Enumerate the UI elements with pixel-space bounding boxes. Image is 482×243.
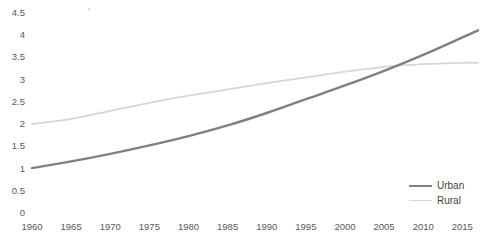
legend-item-urban: Urban	[409, 178, 479, 193]
x-tick-label: 1995	[286, 222, 326, 232]
y-tick-label: 3	[0, 75, 25, 85]
y-tick-label: 0	[0, 208, 25, 218]
y-tick-label: 1.5	[0, 141, 25, 151]
legend-label-urban: Urban	[437, 181, 464, 191]
x-tick-label: 2005	[364, 222, 404, 232]
y-tick-label: 2.5	[0, 97, 25, 107]
x-tick-label: 1965	[51, 222, 91, 232]
x-tick-label: 2015	[442, 222, 482, 232]
y-tick-label: 1	[0, 164, 25, 174]
y-tick-label: 4.5	[0, 8, 25, 18]
x-tick-label: 1985	[208, 222, 248, 232]
y-tick-label: 2	[0, 119, 25, 129]
x-tick-label: 1990	[247, 222, 287, 232]
series-line-urban	[32, 30, 478, 168]
legend-label-rural: Rural	[437, 196, 461, 206]
legend-swatch-urban-icon	[409, 185, 432, 187]
line-chart: 00.511.522.533.544.5 1960196519701975198…	[0, 0, 482, 243]
x-tick-label: 2000	[325, 222, 365, 232]
y-tick-label: 3.5	[0, 52, 25, 62]
stray-artifact-mark	[88, 8, 90, 10]
legend-swatch-rural-icon	[409, 200, 432, 201]
x-tick-label: 1970	[90, 222, 130, 232]
x-tick-label: 2010	[403, 222, 443, 232]
y-tick-label: 4	[0, 30, 25, 40]
x-tick-label: 1960	[12, 222, 52, 232]
x-tick-label: 1980	[168, 222, 208, 232]
legend-item-rural: Rural	[409, 193, 479, 208]
x-tick-label: 1975	[129, 222, 169, 232]
chart-legend: Urban Rural	[409, 178, 479, 208]
y-tick-label: 0.5	[0, 186, 25, 196]
series-line-rural	[32, 63, 478, 124]
